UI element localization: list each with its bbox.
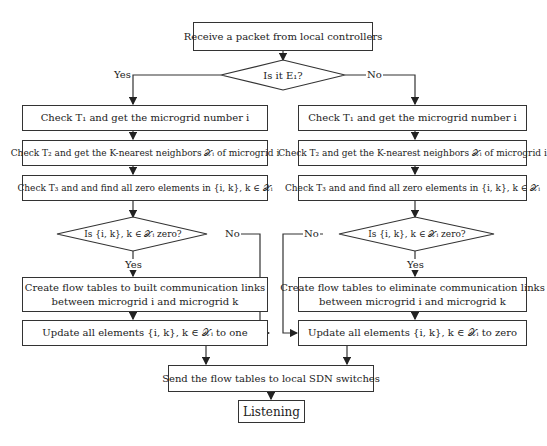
left-decision-no-label: No — [224, 228, 241, 239]
decision-main-text: Is it E₁? — [263, 70, 302, 81]
left-check-t1-box: Check T₁ and get the microgrid number i — [22, 105, 268, 131]
left-check-t2-box: Check T₂ and get the K-nearest neighbors… — [22, 140, 268, 166]
right-check-t3-box: Check T₃ and and find all zero elements … — [298, 175, 527, 201]
left-create-box: Create flow tables to built communicatio… — [22, 277, 268, 312]
right-create-line1: Create flow tables to eliminate communic… — [280, 281, 545, 295]
decision-main-no-label: No — [366, 69, 383, 80]
right-update-text: Update all elements {i, k}, k ∈ 𝒳ᵢ to ze… — [308, 326, 517, 340]
left-update-box: Update all elements {i, k}, k ∈ 𝒳ᵢ to on… — [22, 320, 268, 346]
right-decision-yes-label: Yes — [406, 259, 425, 270]
left-create-line2: between microgrid i and microgrid k — [52, 295, 239, 309]
right-check-t2-text: Check T₂ and get the K-nearest neighbors… — [278, 146, 547, 160]
left-decision-text: Is {i, k}, k ∈ 𝒳ᵢ zero? — [84, 229, 181, 240]
right-check-t2-box: Check T₂ and get the K-nearest neighbors… — [298, 140, 527, 166]
listening-text: Listening — [243, 405, 300, 419]
right-create-box: Create flow tables to eliminate communic… — [298, 277, 527, 312]
listening-box: Listening — [238, 400, 305, 423]
left-check-t3-text: Check T₃ and and find all zero elements … — [17, 181, 272, 195]
right-create-line2: between microgrid i and microgrid k — [319, 295, 506, 309]
right-check-t1-box: Check T₁ and get the microgrid number i — [298, 105, 527, 131]
left-create-line1: Create flow tables to built communicatio… — [25, 281, 265, 295]
left-update-text: Update all elements {i, k}, k ∈ 𝒳ᵢ to on… — [42, 326, 247, 340]
send-box: Send the flow tables to local SDN switch… — [168, 365, 374, 392]
left-check-t1-text: Check T₁ and get the microgrid number i — [41, 111, 250, 125]
right-decision-text: Is {i, k}, k ∈ 𝒳ᵢ zero? — [368, 229, 465, 240]
start-box: Receive a packet from local controllers — [193, 22, 373, 51]
left-check-t2-text: Check T₂ and get the K-nearest neighbors… — [11, 146, 280, 160]
left-check-t3-box: Check T₃ and and find all zero elements … — [22, 175, 268, 201]
right-check-t3-text: Check T₃ and and find all zero elements … — [285, 181, 540, 195]
right-check-t1-text: Check T₁ and get the microgrid number i — [308, 111, 517, 125]
right-decision-no-label: No — [303, 228, 320, 239]
decision-main-yes-label: Yes — [113, 69, 132, 80]
right-update-box: Update all elements {i, k}, k ∈ 𝒳ᵢ to ze… — [298, 320, 527, 346]
send-text: Send the flow tables to local SDN switch… — [162, 372, 380, 386]
start-text: Receive a packet from local controllers — [184, 30, 383, 44]
left-decision-yes-label: Yes — [124, 259, 143, 270]
